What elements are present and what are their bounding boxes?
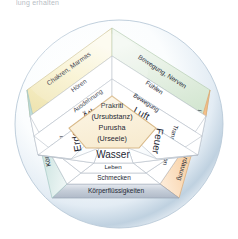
core-line-3: Purusha (99, 123, 126, 132)
label-wasser-function: Körperflüssigkeiten (88, 187, 144, 195)
label-wasser-quality: Leben (104, 163, 122, 170)
diagram-canvas: lung erhalten (0, 0, 238, 239)
five-elements-diagram: Chakren, Marmas Bewegung, Nerven Umwandl… (0, 0, 238, 239)
core-line-4: (Urseele) (97, 134, 127, 143)
label-element-wasser: Wasser (96, 149, 130, 160)
sphere-highlight (24, 30, 148, 110)
label-wasser-sense: Schmecken (97, 174, 131, 181)
core-line-2: (Ursubstanz) (91, 112, 132, 121)
